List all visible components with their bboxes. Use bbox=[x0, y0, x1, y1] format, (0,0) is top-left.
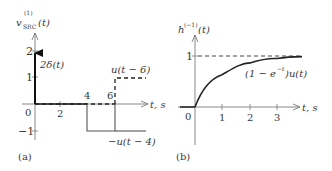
svg-text:(t): (t) bbox=[198, 24, 210, 35]
panel-b-xlabel-2: 2 bbox=[247, 112, 253, 123]
step-neg-label: −u(t − 4) bbox=[108, 136, 156, 147]
panel-a-ylabel-1: 1 bbox=[26, 71, 33, 84]
diagram-canvas: 2 1 −1 0 2 4 6 t, s v (1) SRC (t) 2δ(t) … bbox=[0, 0, 332, 171]
svg-text:(−1): (−1) bbox=[184, 21, 198, 28]
panel-b-xlabel-1: 1 bbox=[219, 112, 225, 123]
svg-text:v: v bbox=[16, 17, 22, 28]
panel-a-xlabel-0: 0 bbox=[25, 107, 31, 118]
impulse-label: 2δ(t) bbox=[39, 59, 64, 70]
svg-text:−t: −t bbox=[277, 65, 285, 72]
panel-b-xlabel-3: 3 bbox=[274, 112, 280, 123]
panel-b-caption: (b) bbox=[176, 151, 190, 162]
panel-a-x-axis-label: t, s bbox=[150, 99, 166, 110]
svg-text:(t): (t) bbox=[38, 17, 50, 28]
panel-b-x-axis-label: t, s bbox=[302, 102, 318, 113]
panel-a-xlabel-2: 2 bbox=[57, 108, 63, 119]
panel-b-xlabel-0: 0 bbox=[185, 111, 191, 122]
panel-a-ylabel-2: 2 bbox=[26, 45, 33, 58]
svg-text:)u(t): )u(t) bbox=[284, 68, 307, 79]
svg-text:SRC: SRC bbox=[23, 23, 37, 30]
response-curve bbox=[195, 57, 302, 107]
step-neg-curve bbox=[87, 104, 115, 131]
panel-b-ylabel-1: 1 bbox=[186, 50, 193, 63]
panel-a: 2 1 −1 0 2 4 6 t, s v (1) SRC (t) 2δ(t) … bbox=[16, 9, 166, 162]
step-pos-label: u(t − 6) bbox=[111, 64, 150, 75]
panel-b-y-axis-label: h (−1) (t) bbox=[178, 21, 210, 35]
response-curve-label: (1 − e −t )u(t) bbox=[245, 65, 307, 79]
panel-a-ylabel-neg1: −1 bbox=[18, 125, 34, 138]
panel-a-y-axis-label: v (1) SRC (t) bbox=[16, 9, 50, 30]
panel-a-xlabel-6: 6 bbox=[107, 90, 113, 101]
panel-a-caption: (a) bbox=[18, 151, 32, 162]
svg-text:(1 − e: (1 − e bbox=[245, 68, 276, 79]
panel-a-xlabel-4: 4 bbox=[84, 90, 90, 101]
panel-b: 1 0 1 2 3 t, s h (−1) (t) (1 − e −t )u(t… bbox=[176, 21, 318, 162]
svg-text:(1): (1) bbox=[24, 9, 33, 16]
step-pos-curve bbox=[115, 78, 146, 104]
